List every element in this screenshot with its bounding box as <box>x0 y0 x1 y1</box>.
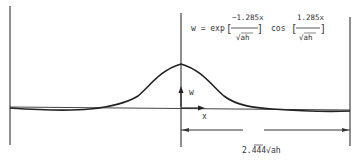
formula-bracket-open-2: [ <box>291 23 297 34</box>
arrow-left-icon <box>182 128 189 132</box>
w-axis-label: w <box>189 88 194 97</box>
formula-cos: cos <box>271 24 286 33</box>
formula-lhs: w = exp <box>191 24 225 33</box>
formula-bracket-close-1: ] <box>257 23 263 34</box>
arrow-right-icon <box>198 106 205 111</box>
deflection-curve <box>10 64 350 111</box>
dimension-label: 2.444√ah <box>242 146 281 155</box>
formula-bracket-open-1: [ <box>226 23 232 34</box>
formula-frac2-denominator: √ah <box>299 33 313 42</box>
formula: w = exp [ −1.285x √ah ] cos [ 1.285x √ah… <box>191 13 326 42</box>
formula-frac2-numerator: 1.285x <box>297 13 325 22</box>
formula-frac1-denominator: √ah <box>236 33 250 42</box>
x-axis-label: x <box>202 112 207 121</box>
arrow-up-icon <box>179 86 184 93</box>
formula-frac1-numerator: −1.285x <box>232 13 264 22</box>
beam-deflection-diagram: w x 2.444√ah w = exp [ −1.285x √ah ] cos… <box>0 0 362 163</box>
formula-bracket-close-2: ] <box>320 23 326 34</box>
arrow-right-icon <box>342 128 349 132</box>
